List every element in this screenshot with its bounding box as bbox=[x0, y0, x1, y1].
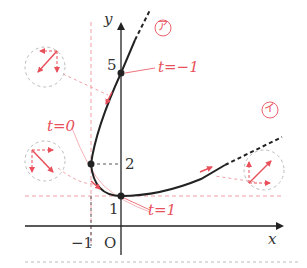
branch-a-label: ア bbox=[157, 21, 168, 32]
point-t-minus1 bbox=[118, 70, 125, 77]
label-t1: t=1 bbox=[148, 203, 176, 218]
leader-t1 bbox=[124, 198, 150, 210]
x-tick-minus1: −1 bbox=[71, 236, 93, 251]
diagram-canvas: y x O −1 5 2 1 t=−1 t=0 t=1 ア イ bbox=[0, 0, 307, 268]
y-axis-label: y bbox=[104, 12, 112, 27]
vector-circle-left bbox=[25, 141, 65, 181]
vector-circle-right bbox=[244, 150, 284, 190]
direction-arrow-right bbox=[200, 167, 212, 172]
x-axis-label: x bbox=[268, 232, 276, 247]
label-t-minus1: t=−1 bbox=[158, 60, 199, 75]
branch-i-label: イ bbox=[264, 103, 275, 114]
label-t0: t=0 bbox=[47, 119, 75, 134]
point-t0 bbox=[88, 161, 95, 168]
point-t1 bbox=[118, 193, 125, 200]
leader-t-minus1 bbox=[125, 68, 155, 73]
y-tick-5: 5 bbox=[107, 58, 117, 73]
branch-i-extension bbox=[225, 137, 282, 165]
leader-circle-upper bbox=[63, 74, 108, 95]
vector-circle-upper bbox=[25, 47, 65, 87]
y-tick-1: 1 bbox=[109, 202, 119, 217]
origin-label: O bbox=[104, 236, 116, 251]
branch-a-extension bbox=[135, 10, 150, 40]
leader-circle-left bbox=[58, 168, 95, 184]
y-tick-2: 2 bbox=[125, 157, 135, 172]
